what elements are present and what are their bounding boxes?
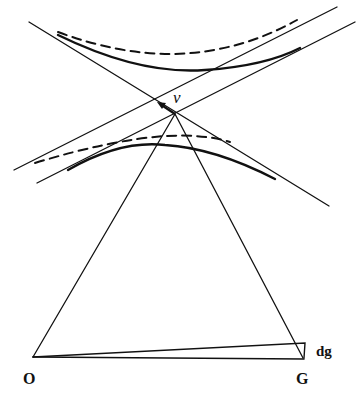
- descending-asymptote-line: [29, 22, 329, 206]
- nu-label: ν: [173, 88, 181, 107]
- upper-dashed-hyperbola: [58, 20, 297, 54]
- O-G-baseline: [33, 357, 304, 359]
- galaxy-label: G: [296, 370, 309, 387]
- origin-label: O: [23, 370, 35, 387]
- dg-wedge: [33, 343, 305, 358]
- apex-to-O-line: [33, 114, 175, 357]
- upper-solid-hyperbola: [58, 35, 300, 71]
- lower-solid-hyperbola: [68, 144, 275, 179]
- gravitational-lens-diagram: ν dg O G: [0, 0, 356, 398]
- dg-label: dg: [316, 343, 332, 359]
